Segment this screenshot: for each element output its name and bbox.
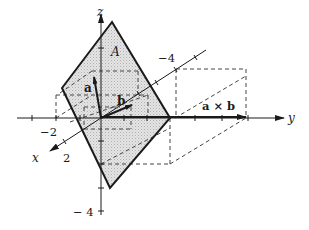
tick-label-z-neg4: − 4 bbox=[73, 205, 94, 219]
plane-a-label: A bbox=[110, 45, 120, 59]
vector-cross-label: a × b bbox=[202, 99, 235, 113]
tick-label-x-neg4: −4 bbox=[158, 51, 175, 65]
tick-label-x-pos2: 2 bbox=[63, 151, 70, 165]
cross-product-diagram: z y x A a b a × b −2 2 −4 − 4 bbox=[0, 0, 309, 230]
vector-b-label: b bbox=[117, 94, 125, 108]
z-axis-label: z bbox=[96, 5, 104, 19]
tick-label-y-neg2: −2 bbox=[40, 125, 57, 139]
x-axis-label: x bbox=[32, 151, 39, 165]
vector-a-label: a bbox=[84, 81, 92, 95]
y-axis-label: y bbox=[287, 111, 295, 125]
